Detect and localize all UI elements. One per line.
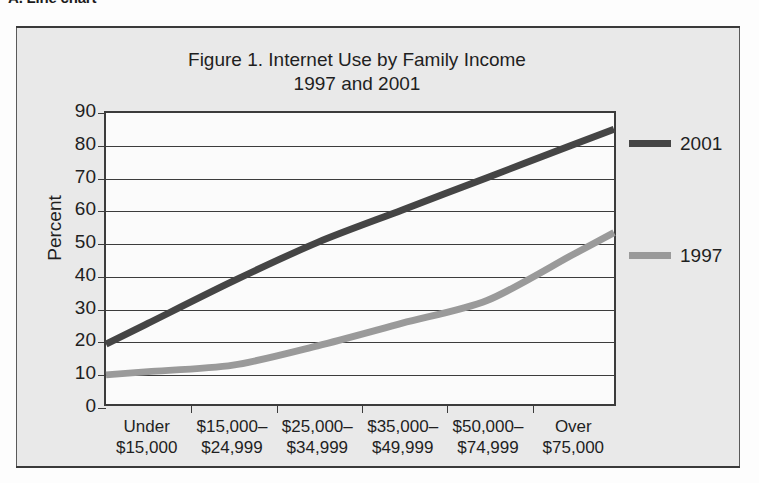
x-axis-tick-label-line: $15,000 [104,437,189,458]
x-axis-tick-label-line: $49,999 [360,437,445,458]
x-axis-tick-label: $50,000–$74,999 [445,416,530,458]
x-axis-tick-label-line: $75,000 [531,437,616,458]
y-axis-tick-label: 50 [44,232,96,251]
y-axis-tick-label: 80 [44,134,96,153]
y-axis-tick-label: 20 [44,330,96,349]
x-axis-tick-label-line: $25,000– [275,416,360,437]
chart-title: Figure 1. Internet Use by Family Income [77,48,637,72]
legend-swatch-icon [629,252,671,259]
y-axis-tick [98,342,106,343]
y-axis-tick-label: 10 [44,363,96,382]
x-axis-tick-label: Over$75,000 [531,416,616,458]
y-axis-tick [98,244,106,245]
x-axis-tick-label-line: $35,000– [360,416,445,437]
legend-swatch-icon [629,140,671,147]
chart-subtitle: 1997 and 2001 [77,72,637,96]
x-axis-tick [362,404,363,413]
x-axis-tick-label-line: $50,000– [445,416,530,437]
plot-area [104,111,616,406]
y-axis-tick-label: 30 [44,298,96,317]
series-line-2001 [106,129,614,344]
series-lines [106,113,614,404]
x-axis-tick-label: $15,000–$24,999 [189,416,274,458]
x-axis-tick-label-line: $24,999 [189,437,274,458]
y-axis-tick [98,179,106,180]
x-axis-tick [191,404,192,413]
y-axis-tick [98,375,106,376]
x-axis-tick-label-line: $34,999 [275,437,360,458]
y-axis-tick [98,211,106,212]
x-axis-tick-label: Under$15,000 [104,416,189,458]
x-axis-tick [533,404,534,413]
x-axis-tick-label-line: $15,000– [189,416,274,437]
legend-item-2001[interactable]: 2001 [629,134,722,154]
y-axis-tick [98,146,106,147]
x-axis-tick [447,404,448,413]
legend-label: 1997 [680,246,722,265]
y-axis-tick-label: 90 [44,101,96,120]
x-axis-tick-label-line: $74,999 [445,437,530,458]
y-axis-tick [98,277,106,278]
x-axis-tick [277,404,278,413]
y-axis-tick-label: 70 [44,167,96,186]
x-axis-tick-label-line: Over [531,416,616,437]
y-axis-tick-label: 0 [44,396,96,415]
legend-label: 2001 [680,134,722,153]
figure-frame: Figure 1. Internet Use by Family Income … [16,26,740,468]
y-axis-tick-label: 60 [44,199,96,218]
y-axis-tick [98,408,106,409]
x-axis-tick-label-line: Under [104,416,189,437]
y-axis-tick [98,310,106,311]
section-heading: A. Line chart [8,0,96,6]
y-axis-tick-label: 40 [44,265,96,284]
y-axis-tick [98,113,106,114]
x-axis-tick-label: $25,000–$34,999 [275,416,360,458]
x-axis-tick-label: $35,000–$49,999 [360,416,445,458]
legend-item-1997[interactable]: 1997 [629,245,722,265]
